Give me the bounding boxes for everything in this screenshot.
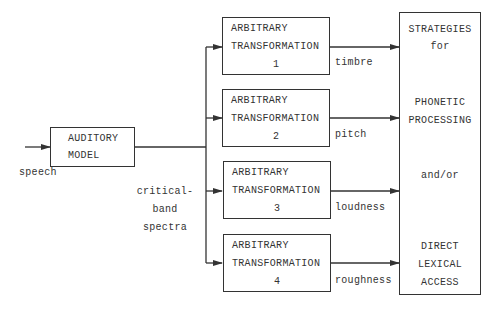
transformation-3-line2: TRANSFORMATION <box>232 185 320 196</box>
output-label-pitch: pitch <box>335 129 367 140</box>
auditory-model-line1: AUDITORY <box>68 133 118 144</box>
strategies-line6: DIRECT <box>400 241 480 252</box>
strategies-line2: for <box>400 41 480 52</box>
strategies-line4: PROCESSING <box>400 115 480 126</box>
bus-label-line3: spectra <box>130 222 200 233</box>
transformation-4-line2: TRANSFORMATION <box>232 258 320 269</box>
transformation-3-number: 3 <box>224 203 330 214</box>
transformation-box-1: ARBITRARY TRANSFORMATION 1 <box>222 17 330 75</box>
transformation-4-line1: ARBITRARY <box>232 240 289 251</box>
strategies-line7: LEXICAL <box>400 259 480 270</box>
output-label-loudness: loudness <box>335 202 385 213</box>
auditory-model-line2: MODEL <box>68 150 100 161</box>
transformation-1-line2: TRANSFORMATION <box>231 41 319 52</box>
auditory-model-box: AUDITORY MODEL <box>50 127 135 167</box>
strategies-line3: PHONETIC <box>400 97 480 108</box>
transformation-1-number: 1 <box>223 59 329 70</box>
bus-label-line1: critical- <box>130 186 200 197</box>
transformation-box-2: ARBITRARY TRANSFORMATION 2 <box>222 89 330 147</box>
strategies-box: STRATEGIES for PHONETIC PROCESSING and/o… <box>399 12 481 295</box>
bus-label-line2: band <box>130 204 200 215</box>
transformation-2-line2: TRANSFORMATION <box>231 113 319 124</box>
transformation-2-number: 2 <box>223 131 329 142</box>
output-label-timbre: timbre <box>335 57 373 68</box>
transformation-4-number: 4 <box>224 276 330 287</box>
transformation-box-4: ARBITRARY TRANSFORMATION 4 <box>223 234 331 292</box>
strategies-line5: and/or <box>400 170 480 181</box>
strategies-line1: STRATEGIES <box>400 24 480 35</box>
transformation-3-line1: ARBITRARY <box>232 167 289 178</box>
output-label-roughness: roughness <box>335 275 392 286</box>
transformation-2-line1: ARBITRARY <box>231 95 288 106</box>
transformation-1-line1: ARBITRARY <box>231 23 288 34</box>
speech-label: speech <box>19 167 57 178</box>
strategies-line8: ACCESS <box>400 277 480 288</box>
transformation-box-3: ARBITRARY TRANSFORMATION 3 <box>223 161 331 219</box>
